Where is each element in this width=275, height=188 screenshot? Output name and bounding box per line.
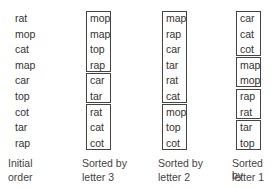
column-caption: letter 3 [82,171,114,183]
word-item: top [15,88,30,104]
column-caption: letter 1 [232,171,264,183]
word-item: rat [15,10,27,26]
group-box [236,120,261,150]
group-box [86,104,111,150]
column-caption: Initial [8,157,33,169]
column-caption: order [8,171,33,183]
word-item: cat [15,41,29,57]
word-item: map [15,57,35,73]
group-box [236,89,261,119]
group-box [236,57,261,87]
group-box [86,73,111,103]
group-box [162,11,187,104]
word-item: cot [15,104,29,120]
group-box [162,104,187,150]
word-item: tar [15,119,27,135]
column-caption: Sorted by [82,157,127,169]
word-item: rap [15,135,30,151]
word-item: mop [15,26,35,42]
group-box [236,11,261,57]
column-caption: letter 2 [158,171,190,183]
column-caption: Sorted by [158,157,203,169]
word-item: car [15,72,30,88]
group-box [86,11,111,72]
